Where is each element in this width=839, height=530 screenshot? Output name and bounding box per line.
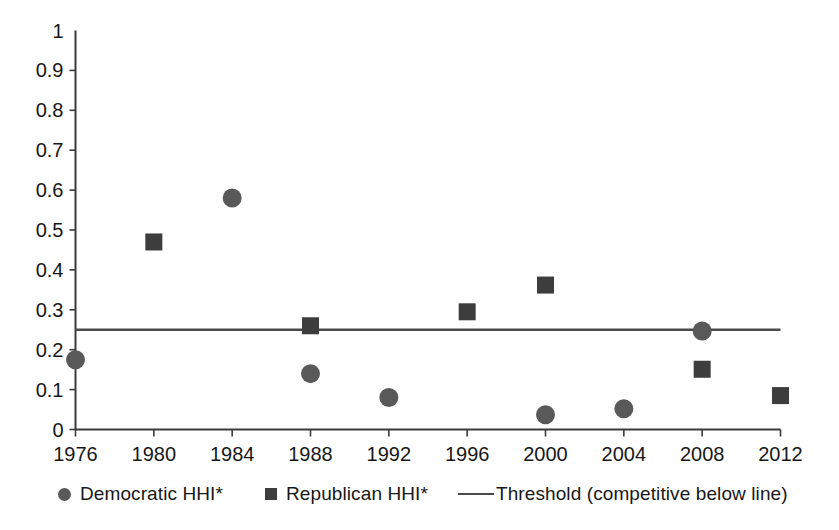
data-points (66, 189, 789, 425)
svg-text:0.2: 0.2 (36, 339, 64, 361)
legend-item-threshold: Threshold (competitive below line) (458, 483, 788, 505)
legend-item-republican: Republican HHI* (265, 483, 428, 505)
svg-text:0.6: 0.6 (36, 179, 64, 201)
svg-text:0.5: 0.5 (36, 219, 64, 241)
svg-text:1992: 1992 (367, 443, 412, 465)
svg-text:0.7: 0.7 (36, 139, 64, 161)
svg-text:1984: 1984 (210, 443, 255, 465)
svg-text:2004: 2004 (602, 443, 647, 465)
scatter-plot: 00.10.20.30.40.50.60.70.80.9119761980198… (0, 0, 839, 530)
legend-label-republican: Republican HHI* (286, 483, 428, 505)
svg-text:0.3: 0.3 (36, 299, 64, 321)
svg-text:1: 1 (52, 20, 63, 42)
svg-text:2008: 2008 (680, 443, 725, 465)
svg-text:0.8: 0.8 (36, 99, 64, 121)
legend-label-democratic: Democratic HHI* (80, 483, 223, 505)
axes (70, 31, 781, 437)
line-marker-icon (458, 493, 494, 495)
svg-text:2012: 2012 (758, 443, 803, 465)
svg-text:1980: 1980 (132, 443, 177, 465)
legend-label-threshold: Threshold (competitive below line) (496, 483, 788, 505)
circle-marker-icon (58, 488, 71, 501)
svg-text:1988: 1988 (288, 443, 333, 465)
svg-text:0.9: 0.9 (36, 59, 64, 81)
svg-text:0.4: 0.4 (36, 259, 64, 281)
chart-container: 00.10.20.30.40.50.60.70.80.9119761980198… (0, 0, 839, 530)
square-marker-icon (265, 488, 277, 500)
svg-text:2000: 2000 (523, 443, 568, 465)
svg-text:0.1: 0.1 (36, 379, 64, 401)
chart-legend: Democratic HHI* Republican HHI* Threshol… (58, 479, 818, 509)
svg-text:1996: 1996 (445, 443, 490, 465)
svg-text:1976: 1976 (53, 443, 98, 465)
svg-text:0: 0 (52, 419, 63, 441)
legend-item-democratic: Democratic HHI* (58, 483, 223, 505)
